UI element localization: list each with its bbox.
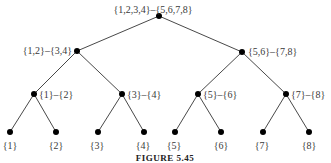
node-label: {8} <box>302 140 317 151</box>
binary-partition-tree: {1,2,3,4}–{5,6,7,8}{1,2}–{3,4}{5,6}–{7,8… <box>0 0 331 163</box>
tree-node <box>195 91 201 97</box>
node-label: {4} <box>136 140 151 151</box>
node-label: {7} <box>255 140 270 151</box>
tree-node <box>260 129 266 135</box>
node-label: {3}–{4} <box>127 89 161 100</box>
node-label: {2} <box>49 140 64 151</box>
node-label: {5,6}–{7,8} <box>248 46 297 57</box>
tree-node <box>306 129 312 135</box>
tree-edge <box>34 51 77 94</box>
tree-node <box>7 129 13 135</box>
node-label: {7}–{8} <box>291 89 325 100</box>
node-label: {3} <box>90 140 105 151</box>
node-label: {1} <box>3 140 18 151</box>
tree-edges <box>10 16 309 132</box>
tree-edge <box>77 51 122 94</box>
tree-node <box>141 129 147 135</box>
tree-node <box>53 129 59 135</box>
tree-edge <box>77 16 159 51</box>
tree-edge <box>198 52 242 94</box>
node-label: {1}–{2} <box>39 89 73 100</box>
tree-node <box>31 91 37 97</box>
tree-node <box>119 91 125 97</box>
tree-edge <box>10 94 34 132</box>
tree-edge <box>175 94 198 132</box>
figure-caption: FIGURE 5.45 <box>136 153 195 163</box>
tree-node <box>239 49 245 55</box>
node-label: {5}–{6} <box>203 89 237 100</box>
node-label: {1,2}–{3,4} <box>23 45 72 56</box>
tree-edge <box>242 52 286 94</box>
tree-edge <box>98 94 122 132</box>
tree-node <box>218 129 224 135</box>
tree-nodes <box>7 13 312 135</box>
node-label: {6} <box>214 140 229 151</box>
node-label: {1,2,3,4}–{5,6,7,8} <box>113 4 192 15</box>
tree-node <box>74 48 80 54</box>
tree-edge <box>263 94 286 132</box>
tree-node <box>95 129 101 135</box>
tree-edge <box>159 16 242 52</box>
tree-node <box>283 91 289 97</box>
tree-node <box>172 129 178 135</box>
node-label: {5} <box>167 140 182 151</box>
